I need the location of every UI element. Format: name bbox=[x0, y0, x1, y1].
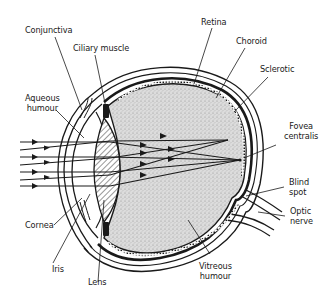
eye-cross-section-drawing bbox=[0, 0, 333, 303]
label-fovea-centralis: Fovea centralis bbox=[284, 122, 318, 141]
label-retina: Retina bbox=[201, 18, 226, 28]
fovea-centralis-point bbox=[238, 158, 241, 161]
label-optic-nerve: Optic nerve bbox=[290, 207, 313, 226]
eye-diagram: Conjunctiva Ciliary muscle Aqueous humou… bbox=[0, 0, 333, 303]
label-lens: Lens bbox=[88, 278, 107, 288]
ciliary-muscle-bottom bbox=[103, 222, 109, 236]
label-cornea: Cornea bbox=[25, 221, 54, 231]
vitreous-humour-region bbox=[104, 84, 246, 253]
label-vitreous-humour: Vitreous humour bbox=[199, 262, 232, 281]
label-blind-spot: Blind spot bbox=[289, 178, 309, 197]
label-choroid: Choroid bbox=[236, 37, 267, 47]
label-conjunctiva: Conjunctiva bbox=[25, 26, 72, 36]
label-iris: Iris bbox=[52, 265, 64, 275]
label-sclerotic: Sclerotic bbox=[260, 65, 294, 75]
label-ciliary-muscle: Ciliary muscle bbox=[73, 44, 129, 54]
label-aqueous-humour: Aqueous humour bbox=[25, 94, 60, 113]
